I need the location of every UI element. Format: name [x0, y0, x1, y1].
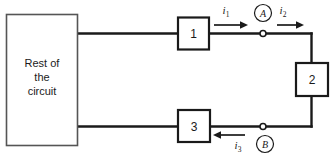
node-b-terminal-dot — [260, 124, 266, 130]
current-i2-label: i2 — [280, 4, 287, 19]
node-a-label: A — [259, 8, 267, 19]
rest-of-circuit-label-line-2: the — [34, 71, 49, 83]
current-i1-label: i1 — [223, 4, 230, 19]
node-b-label: B — [262, 139, 268, 150]
current-i2-subscript: 2 — [283, 10, 287, 19]
rest-of-circuit-label-line-1: Rest of — [25, 57, 61, 69]
element-2-label: 2 — [309, 73, 316, 87]
current-i3-label: i3 — [235, 139, 242, 154]
circuit-schematic-svg: Rest of the circuit 1 2 3 A B i1 — [0, 0, 332, 157]
current-i1-arrow — [214, 21, 248, 29]
current-i1-subscript: 1 — [226, 10, 230, 19]
node-a-terminal-dot — [260, 31, 266, 37]
current-i3-arrow — [213, 131, 245, 139]
current-i2-arrow — [277, 21, 304, 29]
circuit-diagram-canvas: Rest of the circuit 1 2 3 A B i1 — [0, 0, 332, 157]
element-3-label: 3 — [191, 120, 198, 134]
rest-of-circuit-label-line-3: circuit — [28, 85, 57, 97]
current-i3-subscript: 3 — [238, 145, 242, 154]
element-1-label: 1 — [190, 27, 197, 41]
